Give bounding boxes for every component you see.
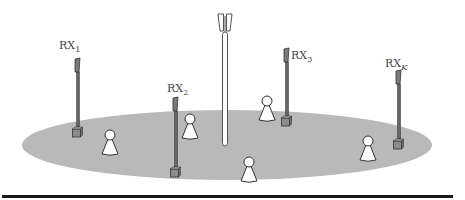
bottom-rule bbox=[2, 195, 453, 198]
receiver-label-rx1: RX1 bbox=[59, 40, 80, 54]
receiver-label-rx3: RX3 bbox=[291, 50, 312, 64]
receiver-label-rx2: RX2 bbox=[167, 83, 188, 97]
user-icon bbox=[259, 96, 275, 121]
coverage-diagram bbox=[0, 0, 465, 200]
receiver-label-rxK: RXK bbox=[385, 58, 407, 72]
